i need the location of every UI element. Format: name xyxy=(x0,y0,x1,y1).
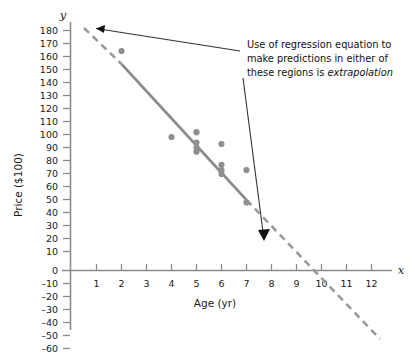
arrowhead-upper-left-icon xyxy=(96,25,105,33)
y-tick-label: 60 xyxy=(46,181,58,192)
data-point xyxy=(168,134,174,140)
data-point xyxy=(243,167,249,173)
y-tick-label: 150 xyxy=(40,64,58,75)
chart-svg: 180 170 160 150 140 130 120 110 100 90 8… xyxy=(0,0,415,360)
x-tick-label: 8 xyxy=(268,278,274,289)
data-point xyxy=(193,149,199,155)
y-tick-label: –40 xyxy=(41,317,58,328)
y-tick-label: –60 xyxy=(41,343,58,354)
annotation-leaders-group xyxy=(96,25,270,241)
y-tick-label: –30 xyxy=(41,304,58,315)
annotation-leader-upper xyxy=(96,29,240,52)
y-tick-label: 30 xyxy=(46,220,58,231)
y-tick-label: 90 xyxy=(46,142,58,153)
y-tick-label: –50 xyxy=(41,330,58,341)
y-tick-label: 40 xyxy=(46,207,58,218)
x-tick-label: 5 xyxy=(193,278,199,289)
y-tick-label: 180 xyxy=(40,25,58,36)
x-tick-label: 7 xyxy=(243,278,249,289)
regression-extrapolation-figure: 180 170 160 150 140 130 120 110 100 90 8… xyxy=(0,0,415,360)
y-tick-label: 130 xyxy=(40,90,58,101)
y-tick-label: 80 xyxy=(46,155,58,166)
x-tick-labels-group: 1 2 3 4 5 6 7 8 9 10 11 12 xyxy=(93,278,377,289)
y-tick-label: 140 xyxy=(40,77,58,88)
x-tick-label: 9 xyxy=(293,278,299,289)
y-axis-variable-label: y xyxy=(59,8,67,22)
annotation-line-2: make predictions in either of xyxy=(247,53,388,64)
annotation-leader-lower xyxy=(243,78,263,232)
annotation-line-3: these regions is extrapolation xyxy=(247,67,393,78)
y-tick-label: –10 xyxy=(41,278,58,289)
x-tick-label: 11 xyxy=(340,278,352,289)
arrowhead-lower-right-icon xyxy=(258,229,270,241)
annotation-line-3-text: these regions is xyxy=(247,67,327,78)
y-axis-title: Price ($100) xyxy=(12,153,24,217)
x-axis-variable-label: x xyxy=(398,263,405,277)
y-tick-label: 10 xyxy=(46,246,58,257)
y-tick-label: 160 xyxy=(40,51,58,62)
data-point xyxy=(118,48,124,54)
dashed-line-lower-right xyxy=(247,200,381,339)
y-tick-labels-group: 180 170 160 150 140 130 120 110 100 90 8… xyxy=(40,25,58,354)
x-tick-label: 4 xyxy=(168,278,174,289)
annotation-line-1: Use of regression equation to xyxy=(247,39,391,50)
y-tick-label: 0 xyxy=(52,265,58,276)
x-axis-title: Age (yr) xyxy=(194,297,236,309)
y-tick-label: –20 xyxy=(41,291,58,302)
regression-line-solid xyxy=(122,64,247,200)
data-point xyxy=(193,129,199,135)
data-point xyxy=(243,199,249,205)
y-tick-label: 20 xyxy=(46,233,58,244)
x-tick-label: 2 xyxy=(118,278,124,289)
y-tick-label: 70 xyxy=(46,168,58,179)
y-tick-label: 170 xyxy=(40,38,58,49)
x-tick-label: 12 xyxy=(365,278,377,289)
x-tick-label: 1 xyxy=(93,278,99,289)
data-point xyxy=(218,171,224,177)
data-point xyxy=(218,141,224,147)
x-tick-label: 6 xyxy=(218,278,224,289)
annotation-emphasis-extrapolation: extrapolation xyxy=(327,67,392,78)
x-tick-label: 3 xyxy=(143,278,149,289)
y-tick-label: 120 xyxy=(40,103,58,114)
y-tick-label: 110 xyxy=(40,116,58,127)
y-tick-label: 50 xyxy=(46,194,58,205)
y-tick-label: 100 xyxy=(40,129,58,140)
y-ticks-group xyxy=(63,31,70,349)
dashed-line-upper-left xyxy=(84,28,122,64)
extrapolation-annotation: Use of regression equation to make predi… xyxy=(247,39,393,78)
